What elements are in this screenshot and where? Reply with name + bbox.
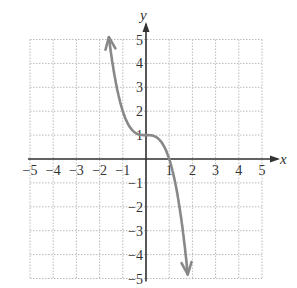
x-tick-label: −3: [69, 163, 84, 178]
x-tick-label: 2: [189, 163, 196, 178]
y-tick-label: −5: [128, 272, 143, 287]
y-tick-label: −4: [128, 248, 143, 263]
y-tick-label: −3: [128, 224, 143, 239]
x-tick-label: −5: [23, 163, 38, 178]
y-tick-label: 4: [136, 56, 143, 71]
chart-svg: −5−4−3−2−11234554321−1−2−3−4−5 x y: [0, 0, 297, 288]
y-axis-label: y: [138, 7, 147, 23]
x-tick-label: 5: [259, 163, 266, 178]
x-tick-label: −4: [46, 163, 61, 178]
y-tick-label: −1: [128, 176, 143, 191]
y-tick-label: 5: [136, 33, 143, 48]
y-tick-label: −2: [128, 200, 143, 215]
x-axis-label: x: [279, 151, 287, 167]
chart: −5−4−3−2−11234554321−1−2−3−4−5 x y: [0, 0, 297, 288]
x-tick-label: −2: [92, 163, 107, 178]
x-tick-label: 4: [235, 163, 242, 178]
y-tick-label: 2: [136, 104, 143, 119]
curve: [105, 37, 191, 274]
y-tick-label: 3: [136, 80, 143, 95]
axes: [28, 22, 280, 282]
x-tick-label: 3: [212, 163, 219, 178]
